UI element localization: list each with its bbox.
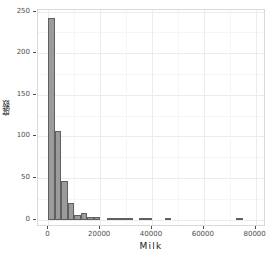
histogram-bar — [94, 217, 100, 219]
x-tick-label: 40000 — [140, 230, 162, 239]
histogram-bar — [55, 131, 61, 219]
x-tick-mark — [47, 226, 48, 229]
histogram-bar — [165, 218, 171, 220]
gridline-minor-x — [178, 10, 179, 225]
gridline-major-x — [152, 10, 153, 225]
y-tick-mark — [33, 94, 36, 95]
y-tick-mark — [33, 177, 36, 178]
x-tick-label: 0 — [45, 230, 49, 239]
histogram-bar — [68, 203, 74, 220]
y-tick-mark — [33, 219, 36, 220]
histogram-bar — [126, 218, 132, 220]
y-axis-tick-labels: 050100150200250 — [8, 0, 30, 263]
y-axis-title: 度数 — [1, 100, 12, 116]
y-tick-label: 150 — [17, 90, 30, 98]
histogram-bar — [87, 217, 93, 219]
x-tick-label: 60000 — [192, 230, 214, 239]
x-tick-mark — [99, 226, 100, 229]
gridline-major-x — [256, 10, 257, 225]
gridline-minor-x — [230, 10, 231, 225]
x-tick-label: 20000 — [88, 230, 110, 239]
y-tick-label: 0 — [26, 215, 30, 223]
gridline-minor-x — [126, 10, 127, 225]
y-tick-label: 200 — [17, 48, 30, 56]
histogram-bar — [236, 218, 242, 220]
histogram-bar — [113, 218, 119, 220]
plot-panel — [37, 9, 265, 226]
x-axis-title: Milk — [37, 241, 265, 251]
gridline-major-x — [100, 10, 101, 225]
y-tick-label: 50 — [21, 173, 30, 181]
x-tick-mark — [203, 226, 204, 229]
histogram-bar — [146, 218, 152, 220]
y-tick-mark — [33, 11, 36, 12]
x-tick-label: 80000 — [243, 230, 265, 239]
y-tick-mark — [33, 135, 36, 136]
y-tick-mark — [33, 52, 36, 53]
histogram-bar — [74, 215, 80, 220]
y-tick-label: 250 — [17, 7, 30, 15]
y-tick-label: 100 — [17, 131, 30, 139]
x-tick-mark — [151, 226, 152, 229]
histogram-figure: 050100150200250 020000400006000080000 Mi… — [0, 0, 273, 263]
gridline-major-x — [204, 10, 205, 225]
gridline-minor-x — [74, 10, 75, 225]
x-tick-mark — [255, 226, 256, 229]
histogram-bar — [139, 218, 145, 220]
